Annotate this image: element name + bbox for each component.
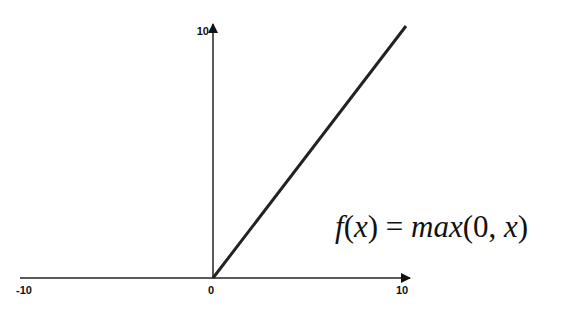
x-tick-label: 10	[396, 284, 408, 296]
formula-part: x	[353, 209, 368, 244]
x-tick-label: 0	[208, 284, 214, 296]
formula-part: )	[518, 209, 528, 244]
formula-part: x	[503, 209, 518, 244]
formula-annotation: f(x) = max(0, x)	[335, 209, 528, 244]
x-tick-label: -10	[16, 284, 32, 296]
y-tick-label: 10	[197, 25, 209, 37]
formula-part: max	[411, 209, 463, 244]
relu-chart: -1001010 f(x) = max(0, x)	[0, 0, 572, 311]
formula-part: (0,	[463, 209, 504, 244]
formula-part: ) =	[368, 209, 411, 244]
formula-part: (	[344, 209, 354, 244]
